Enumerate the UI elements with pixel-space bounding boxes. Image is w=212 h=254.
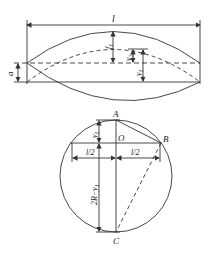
y2-label: y2 bbox=[124, 54, 134, 62]
point-c-label: C bbox=[113, 236, 120, 246]
sag-label: f1 bbox=[104, 44, 114, 49]
dashed-arc bbox=[27, 50, 200, 83]
svg-text:y2: y2 bbox=[124, 54, 134, 62]
bottom-figure bbox=[60, 120, 172, 232]
point-b-label: B bbox=[163, 134, 169, 144]
geometry-diagram: l a f1 y2 y1 A O B C l/2 l/2 y1 2R−y1 bbox=[0, 0, 212, 254]
chord-label: 2R−y1 bbox=[90, 184, 100, 205]
y1-label: y1 bbox=[134, 69, 144, 77]
point-a-label: A bbox=[112, 109, 119, 119]
top-figure bbox=[14, 20, 200, 101]
point-o-label: O bbox=[118, 133, 125, 143]
svg-text:f1: f1 bbox=[104, 44, 114, 49]
svg-text:2R−y1: 2R−y1 bbox=[90, 184, 100, 205]
y1-circle-label: y1 bbox=[90, 131, 100, 139]
half-span-right-label: l/2 bbox=[131, 148, 139, 157]
svg-text:y1: y1 bbox=[134, 69, 144, 77]
offset-label: a bbox=[5, 71, 15, 76]
svg-text:y1: y1 bbox=[90, 131, 100, 139]
span-label: l bbox=[112, 13, 115, 24]
half-span-left-label: l/2 bbox=[86, 148, 94, 157]
